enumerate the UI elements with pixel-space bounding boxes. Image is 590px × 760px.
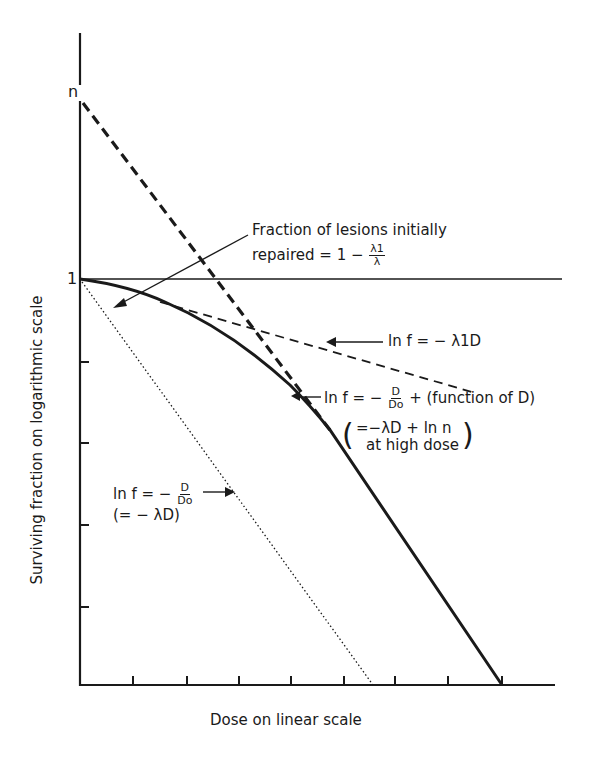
exponential-annotation-line2: (= − λD) xyxy=(113,507,180,524)
shoulder-prefix: ln f = − xyxy=(324,389,382,407)
repair-frac-den: λ xyxy=(374,256,381,268)
repair-fraction: λ1 λ xyxy=(369,243,385,268)
shoulder-annotation-line3: at high dose xyxy=(366,437,459,454)
repair-annotation-line2: repaired = 1 − λ1 λ xyxy=(252,243,386,268)
y-mark-n: n xyxy=(68,83,78,100)
x-axis-label: Dose on linear scale xyxy=(210,712,362,729)
repair-prefix: repaired = 1 − xyxy=(252,246,364,264)
repair-annotation-line1: Fraction of lesions initially xyxy=(252,222,447,239)
repair-arrowhead-icon xyxy=(113,298,127,308)
exponential-arrowhead-icon xyxy=(225,487,235,497)
lambda1-arrowhead-icon xyxy=(326,337,336,347)
shoulder-annotation-line1: ln f = − D Do + (function of D) xyxy=(324,386,535,411)
shoulder-fraction: D Do xyxy=(388,386,403,411)
x-ticks xyxy=(133,676,502,685)
y-ticks xyxy=(80,362,89,607)
lambda1-annotation: ln f = − λ1D xyxy=(388,333,481,350)
exponential-prefix: ln f = − xyxy=(113,485,171,503)
y-mark-1: 1 xyxy=(67,270,77,287)
shoulder-close-paren: ) xyxy=(462,418,474,452)
shoulder-open-paren: ( xyxy=(342,418,354,452)
survival-curve-diagram xyxy=(0,0,590,760)
exponential-fraction: D Do xyxy=(177,482,192,507)
shoulder-frac-den: Do xyxy=(388,399,403,411)
y-axis-label: Surviving fraction on logarithmic scale xyxy=(28,295,46,584)
shoulder-suffix: + (function of D) xyxy=(409,389,535,407)
shoulder-annotation-line2: =−λD + ln n xyxy=(356,420,452,437)
exponential-annotation-line1: ln f = − D Do xyxy=(113,482,193,507)
